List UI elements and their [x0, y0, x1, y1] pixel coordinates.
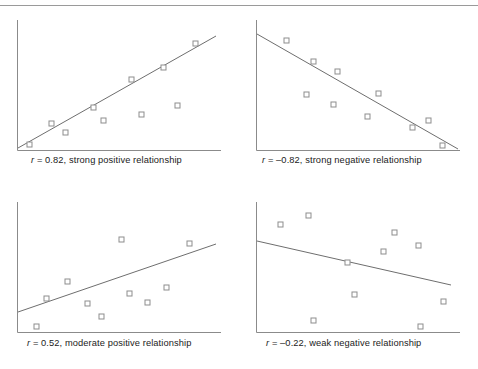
regression-line-top-left	[18, 36, 216, 148]
caption-text: = 0.82, strong positive relationship	[34, 155, 182, 165]
data-point	[175, 103, 180, 108]
data-point	[304, 92, 309, 97]
regression-line-bottom-left	[18, 244, 216, 312]
caption-text: = –0.82, strong negative relationship	[265, 155, 422, 165]
data-point	[410, 125, 415, 130]
data-point	[284, 38, 289, 43]
caption-text: = 0.52, moderate positive relationship	[30, 338, 191, 348]
data-point	[416, 243, 421, 248]
scatter-plot-bottom-right	[253, 200, 463, 336]
caption-top-left: r = 0.82, strong positive relationship	[31, 155, 182, 165]
regression-line-bottom-right	[257, 241, 451, 285]
scatter-plot-top-left	[14, 18, 224, 154]
plot-axes-bottom-right	[257, 202, 461, 333]
scatter-plot-bottom-left	[14, 200, 224, 336]
data-point	[34, 324, 39, 329]
data-point	[161, 65, 166, 70]
caption-text: = –0.22, weak negative relationship	[269, 338, 421, 348]
data-point	[49, 121, 54, 126]
data-points-bottom-right	[278, 213, 446, 329]
data-point	[306, 213, 311, 218]
data-points-bottom-left	[34, 237, 192, 329]
data-point	[164, 285, 169, 290]
data-point	[101, 118, 106, 123]
panel-top-right	[253, 18, 463, 154]
data-points-top-right	[284, 38, 445, 148]
panel-bottom-right	[253, 200, 463, 336]
data-point	[441, 299, 446, 304]
data-point	[352, 292, 357, 297]
data-point	[311, 318, 316, 323]
scatter-plot-top-right	[253, 18, 463, 154]
data-point	[91, 105, 96, 110]
data-point	[440, 143, 445, 148]
data-point	[335, 69, 340, 74]
caption-bottom-right: r = –0.22, weak negative relationship	[266, 338, 421, 348]
data-point	[63, 130, 68, 135]
data-point	[65, 279, 70, 284]
data-point	[381, 249, 386, 254]
data-point	[145, 300, 150, 305]
data-point	[426, 118, 431, 123]
data-point	[376, 91, 381, 96]
data-point	[139, 112, 144, 117]
data-point	[127, 291, 132, 296]
data-point	[418, 324, 423, 329]
top-horizontal-rule	[0, 5, 478, 6]
caption-top-right: r = –0.82, strong negative relationship	[262, 155, 422, 165]
data-point	[392, 230, 397, 235]
data-point	[119, 237, 124, 242]
data-point	[311, 59, 316, 64]
data-point	[99, 314, 104, 319]
correlation-scatterplot-figure: r = 0.82, strong positive relationship	[0, 0, 478, 369]
panel-bottom-left	[14, 200, 224, 336]
data-point	[331, 102, 336, 107]
regression-line-top-right	[257, 34, 458, 149]
data-point	[187, 241, 192, 246]
data-point	[365, 114, 370, 119]
data-point	[85, 301, 90, 306]
data-point	[27, 142, 32, 147]
panel-top-left	[14, 18, 224, 154]
plot-axes-bottom-left	[18, 202, 222, 333]
data-point	[278, 222, 283, 227]
caption-bottom-left: r = 0.52, moderate positive relationship	[27, 338, 191, 348]
data-point	[129, 77, 134, 82]
data-point	[44, 296, 49, 301]
data-point	[193, 41, 198, 46]
data-point	[345, 260, 350, 265]
